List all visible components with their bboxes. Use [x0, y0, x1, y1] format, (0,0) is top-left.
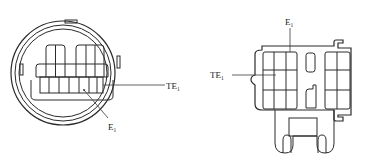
e1-label-right: E1 [285, 17, 294, 28]
middle-slot-bottom [306, 85, 316, 108]
latch-foot-left [283, 135, 291, 153]
latch-window [289, 118, 317, 136]
te1-label: TE1 [166, 81, 180, 92]
left-pin-block [263, 52, 297, 109]
lower-latch [275, 110, 334, 153]
diagram-canvas: TE1 E1 [0, 0, 366, 165]
middle-slot-top [306, 53, 315, 72]
outer-ring [11, 21, 115, 125]
lower-shroud [31, 80, 113, 100]
latch-foot-right [318, 135, 326, 153]
middle-pin-row [36, 64, 108, 77]
pin-housing [31, 45, 113, 100]
round-connector: TE1 E1 [11, 20, 180, 133]
middle-ring [15, 25, 111, 121]
top-right-pin-group [76, 45, 104, 64]
inner-ring [19, 29, 107, 117]
key-tab-right [117, 56, 120, 68]
te1-label-right: TE1 [210, 70, 224, 81]
rect-connector: E1 TE1 [210, 17, 351, 153]
right-pin-block [325, 52, 350, 109]
key-tab-left [20, 64, 23, 75]
e1-label: E1 [108, 122, 117, 133]
